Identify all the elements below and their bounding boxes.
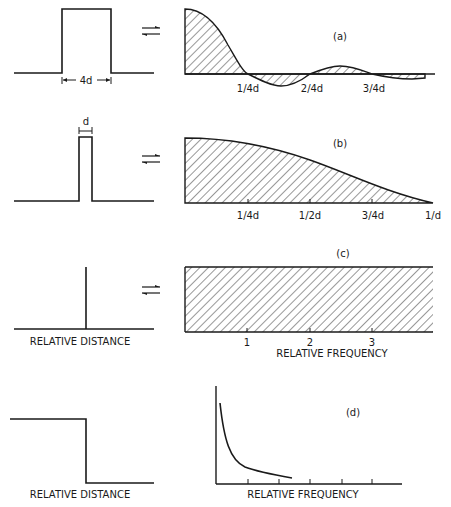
panel-label-b: (b)	[333, 138, 347, 149]
width-label-4d: 4d	[80, 75, 93, 86]
tick-label: 1/2d	[299, 210, 321, 221]
panel-label-c: (c)	[336, 248, 349, 259]
transform-arrows-icon	[142, 154, 160, 164]
tick-label: 1/4d	[237, 210, 259, 221]
transform-arrows-icon	[142, 285, 160, 295]
x-axis-label-frequency: RELATIVE FREQUENCY	[247, 489, 359, 500]
tick-label: 2/4d	[301, 83, 323, 94]
sinc-main-lobe-spectrum: 1/4d 1/2d 3/4d 1/d (b)	[185, 138, 441, 221]
flat-spectrum: 1 2 3 RELATIVE FREQUENCY (c)	[185, 248, 433, 359]
tick-label: 1/d	[425, 210, 441, 221]
fourier-pairs-diagram: 4d 1/4d 2/4d 3/4d (a) d	[0, 0, 451, 507]
tick-label: 3	[369, 337, 375, 348]
tick-label: 3/4d	[363, 83, 385, 94]
panel-label-a: (a)	[333, 31, 347, 42]
panel-a: 4d 1/4d 2/4d 3/4d (a)	[14, 9, 435, 94]
x-axis-label-frequency: RELATIVE FREQUENCY	[276, 348, 388, 359]
step-signal: RELATIVE DISTANCE	[10, 419, 154, 500]
width-label-d: d	[83, 116, 89, 127]
inverse-frequency-spectrum: (d) RELATIVE FREQUENCY	[216, 386, 402, 500]
tick-label: 2	[307, 337, 313, 348]
impulse-signal: RELATIVE DISTANCE	[14, 267, 154, 347]
panel-label-d: (d)	[346, 407, 360, 418]
tick-label: 1	[244, 337, 250, 348]
panel-c: RELATIVE DISTANCE 1 2 3 RELATIVE FREQUEN…	[14, 248, 433, 359]
x-axis-label-distance: RELATIVE DISTANCE	[30, 336, 130, 347]
transform-arrows-icon	[142, 26, 160, 36]
tick-label: 1/4d	[237, 83, 259, 94]
sinc-spectrum: 1/4d 2/4d 3/4d (a)	[185, 9, 435, 94]
x-axis-label-distance: RELATIVE DISTANCE	[30, 489, 130, 500]
rect-pulse-wide: 4d	[14, 9, 154, 86]
panel-b: d 1/4d 1/2d 3/4d 1/d (b)	[14, 116, 441, 221]
panel-d: RELATIVE DISTANCE (d) RELATIVE FREQUENCY	[10, 386, 402, 500]
rect-pulse-narrow: d	[14, 116, 154, 201]
tick-label: 3/4d	[362, 210, 384, 221]
